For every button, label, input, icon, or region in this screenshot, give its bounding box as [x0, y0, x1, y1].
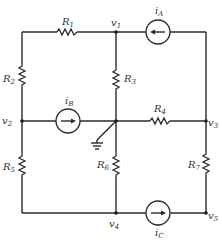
node-v4-dot [114, 211, 118, 215]
label-ic: iC [155, 227, 164, 240]
label-r7: R7 [187, 159, 201, 172]
label-ia: iA [155, 5, 163, 18]
circuit-diagram: R1 R2 R3 R4 R5 R6 R7 iA iB iC v1 v2 v3 v… [0, 0, 222, 241]
resistor-r7 [203, 150, 209, 176]
resistor-r2 [19, 62, 25, 88]
left-branch [19, 62, 146, 213]
label-ib: iB [65, 95, 73, 108]
resistor-r3 [113, 66, 119, 92]
label-v5: v5 [208, 210, 219, 223]
node-v1-dot [114, 30, 118, 34]
resistor-r1 [57, 29, 77, 35]
middle-row [22, 109, 206, 133]
label-r6: R6 [96, 159, 110, 172]
node-v2-dot [20, 119, 24, 123]
label-v2: v2 [2, 115, 13, 128]
label-r2: R2 [2, 73, 16, 86]
label-r1: R1 [61, 16, 74, 29]
ground-icon [91, 121, 116, 149]
resistor-r4 [150, 118, 170, 124]
node-center-dot [114, 119, 118, 123]
resistor-r6 [113, 152, 119, 178]
label-r3: R3 [123, 73, 137, 86]
right-branch [203, 150, 209, 213]
label-r5: R5 [2, 161, 16, 174]
label-v1: v1 [111, 17, 121, 30]
label-v3: v3 [208, 117, 219, 130]
bottom-branch [146, 201, 206, 225]
resistor-r5 [19, 152, 25, 178]
label-r4: R4 [153, 103, 166, 116]
label-v4: v4 [109, 218, 119, 231]
